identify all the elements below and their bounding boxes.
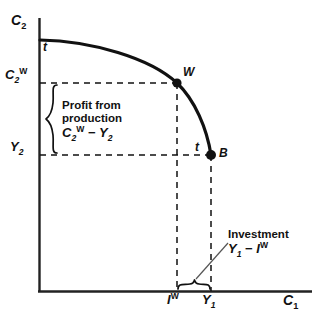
diagram-canvas xyxy=(0,0,324,325)
point-b-marker xyxy=(206,150,216,160)
x-tick-label-iw: IW xyxy=(167,293,179,308)
x-axis-label: C1 xyxy=(283,293,298,309)
profit-annotation-line2: production xyxy=(62,112,122,124)
profit-annotation: Profit from production C2W − Y2 xyxy=(62,99,122,140)
y-tick-label-y2: Y2 xyxy=(10,140,23,155)
profit-annotation-line1: Profit from xyxy=(62,99,121,111)
tangent-label-b: t xyxy=(195,141,199,154)
ppf-diagram: C2 C1 C2W Y2 IW Y1 W B t t Profit from p… xyxy=(0,0,324,325)
investment-annotation-line1: Investment xyxy=(228,228,289,240)
point-w-label: W xyxy=(183,66,194,79)
y-tick-label-c2w: C2W xyxy=(5,68,27,83)
tangent-label-top: t xyxy=(43,41,47,54)
investment-annotation-formula: Y1 − IW xyxy=(228,242,289,257)
y-axis-label: C2 xyxy=(11,13,26,29)
investment-brace xyxy=(178,280,210,289)
investment-annotation: Investment Y1 − IW xyxy=(228,228,289,256)
point-b-label: B xyxy=(219,147,228,160)
x-tick-label-y1: Y1 xyxy=(202,293,215,308)
profit-annotation-formula: C2W − Y2 xyxy=(62,126,122,141)
point-w-marker xyxy=(172,78,181,87)
profit-brace xyxy=(46,85,57,153)
investment-leader-line xyxy=(196,243,228,279)
